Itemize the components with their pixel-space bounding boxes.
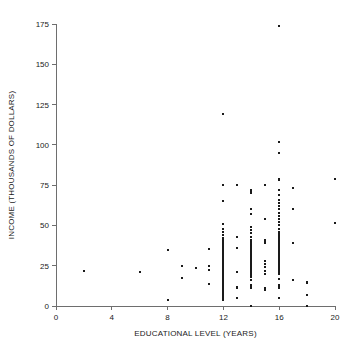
x-tick-label: 12	[219, 313, 228, 322]
data-point	[195, 267, 197, 269]
data-point	[278, 194, 280, 196]
data-point	[250, 208, 252, 210]
data-point	[278, 141, 280, 143]
data-point	[278, 179, 280, 181]
data-point	[222, 200, 224, 202]
data-point	[264, 289, 266, 291]
x-tick-label: 4	[110, 313, 115, 322]
y-tick-label: 25	[40, 262, 49, 271]
data-point	[222, 299, 224, 301]
data-point	[208, 265, 210, 267]
data-point	[278, 205, 280, 207]
y-tick-label: 150	[36, 60, 50, 69]
data-point	[222, 234, 224, 236]
y-tick-label: 50	[40, 221, 49, 230]
data-point	[306, 294, 308, 296]
data-point	[250, 279, 252, 281]
data-point	[292, 187, 294, 189]
data-point	[83, 270, 85, 272]
data-point	[264, 184, 266, 186]
data-point	[278, 221, 280, 223]
data-point	[236, 271, 238, 273]
data-point	[139, 271, 141, 273]
x-tick-label: 16	[275, 313, 284, 322]
data-point	[222, 231, 224, 233]
data-point	[278, 218, 280, 220]
data-point	[264, 273, 266, 275]
plot-axes	[56, 24, 336, 307]
data-point	[278, 202, 280, 204]
data-point	[250, 192, 252, 194]
x-axis-title: EDUCATIONAL LEVEL (YEARS)	[134, 329, 257, 338]
data-point	[181, 277, 183, 279]
scatter-plot-canvas: 0255075100125150175 048121620 EDUCATIONA…	[0, 0, 353, 356]
y-axis-title: INCOME (THOUSANDS OF DOLLARS)	[7, 91, 16, 240]
data-point	[278, 199, 280, 201]
data-point	[278, 228, 280, 230]
y-tick-label: 175	[36, 20, 50, 29]
data-point	[208, 248, 210, 250]
data-point	[222, 223, 224, 225]
y-tick-label: 0	[45, 302, 50, 311]
data-point	[236, 184, 238, 186]
scatter-plot-figure: 0255075100125150175 048121620 EDUCATIONA…	[0, 0, 353, 356]
data-point	[264, 263, 266, 265]
data-point	[292, 208, 294, 210]
data-point	[278, 278, 280, 280]
data-point	[236, 297, 238, 299]
data-point	[250, 232, 252, 234]
data-point	[264, 242, 266, 244]
data-point	[306, 282, 308, 284]
y-tick-label: 75	[40, 181, 49, 190]
data-point	[222, 228, 224, 230]
x-tick-label: 8	[165, 313, 170, 322]
y-axis-ticks: 0255075100125150175	[36, 20, 56, 311]
data-point	[167, 249, 169, 251]
data-point	[278, 189, 280, 191]
data-point	[167, 299, 169, 301]
y-tick-label: 100	[36, 141, 50, 150]
data-point	[250, 305, 252, 307]
data-point	[306, 305, 308, 307]
x-tick-label: 0	[54, 313, 59, 322]
data-point	[278, 152, 280, 154]
data-point	[278, 212, 280, 214]
data-point	[334, 222, 336, 224]
x-axis-ticks: 048121620	[54, 306, 340, 322]
data-point	[250, 229, 252, 231]
data-point	[278, 287, 280, 289]
data-point	[264, 270, 266, 272]
data-point	[181, 265, 183, 267]
data-point	[292, 279, 294, 281]
data-point	[250, 226, 252, 228]
data-point	[208, 269, 210, 271]
data-point	[222, 184, 224, 186]
data-point	[264, 218, 266, 220]
data-point	[264, 266, 266, 268]
x-tick-label: 20	[331, 313, 340, 322]
data-point	[236, 236, 238, 238]
data-point	[278, 224, 280, 226]
data-point	[222, 113, 224, 115]
data-point	[208, 283, 210, 285]
y-tick-label: 125	[36, 101, 50, 110]
data-point	[236, 247, 238, 249]
data-points-layer	[83, 25, 336, 307]
data-point	[250, 213, 252, 215]
data-point	[278, 208, 280, 210]
data-point	[334, 178, 336, 180]
data-point	[278, 215, 280, 217]
data-point	[250, 276, 252, 278]
data-point	[264, 260, 266, 262]
data-point	[292, 242, 294, 244]
data-point	[278, 297, 280, 299]
data-point	[278, 25, 280, 27]
data-point	[250, 287, 252, 289]
data-point	[250, 236, 252, 238]
data-point	[278, 273, 280, 275]
data-point	[236, 287, 238, 289]
